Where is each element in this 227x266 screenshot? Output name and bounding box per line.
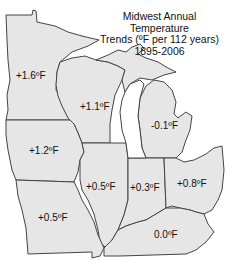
title-line-2: Trends (ºF per 112 years) [92,34,227,46]
state-michigan-lower [138,80,192,158]
label-wisconsin: +1.1ºF [80,101,110,112]
label-minnesota: +1.6ºF [16,70,46,81]
title-line-1: Midwest Annual Temperature [92,11,227,34]
title-line-3: 1895-2006 [92,46,227,58]
label-indiana: +0.3ºF [130,182,160,193]
label-kentucky: 0.0ºF [154,229,178,240]
label-illinois: +0.5ºF [86,181,116,192]
map-title: Midwest Annual Temperature Trends (ºF pe… [92,11,227,57]
label-ohio: +0.8ºF [177,178,207,189]
label-missouri: +0.5ºF [38,212,68,223]
label-michigan: -0.1ºF [151,120,178,131]
label-iowa: +1.2ºF [29,145,59,156]
